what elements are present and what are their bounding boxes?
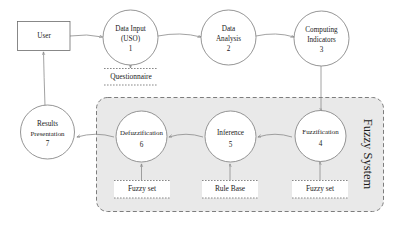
flow-data-analysis-to-computing-indicators <box>256 34 294 37</box>
flow-data-input-to-data-analysis <box>158 34 201 37</box>
diagram-canvas: Fuzzy System User Data Input <box>0 0 402 228</box>
process-results-presentation-number: 7 <box>46 140 50 148</box>
process-data-analysis-number: 2 <box>227 45 231 53</box>
process-data-analysis-label-line1: Data <box>222 25 236 33</box>
process-data-analysis-label-line2: Analysis <box>216 35 241 43</box>
flow-user-to-data-input <box>70 35 103 37</box>
process-fuzzification-circle[interactable] <box>295 111 346 162</box>
process-inference-label: Inference <box>217 129 244 137</box>
store-fuzzy-set-right-label: Fuzzy set <box>306 184 335 193</box>
process-results-presentation-label-line1: Results <box>37 120 58 128</box>
process-data-input-label-line1: Data Input <box>115 25 146 33</box>
store-questionnaire-label: Questionnaire <box>110 72 152 81</box>
process-data-input-label-line2: (USO) <box>121 35 141 43</box>
process-fuzzification-label: Fuzzification <box>302 128 339 135</box>
diagram-svg: Fuzzy System User Data Input <box>0 0 402 228</box>
flow-results-to-user <box>44 52 46 106</box>
external-entity-user-label: User <box>37 32 51 40</box>
process-results-presentation-label-line2: Presentation <box>30 130 65 137</box>
process-fuzzification-number: 4 <box>319 140 323 148</box>
process-computing-indicators-number: 3 <box>320 46 324 54</box>
process-computing-indicators-label-line2: Indicators <box>307 36 336 44</box>
store-fuzzy-set-left-label: Fuzzy set <box>128 184 157 193</box>
process-data-input-number: 1 <box>129 45 133 53</box>
store-rule-base-label: Rule Base <box>215 184 246 193</box>
process-defuzzification-label: Defuzzification <box>120 129 163 136</box>
process-inference-number: 5 <box>229 141 233 149</box>
process-defuzzification-number: 6 <box>140 141 144 149</box>
fuzzy-system-label: Fuzzy System <box>361 119 375 190</box>
process-defuzzification-circle[interactable] <box>116 111 167 162</box>
process-computing-indicators-label-line1: Computing <box>305 26 338 34</box>
